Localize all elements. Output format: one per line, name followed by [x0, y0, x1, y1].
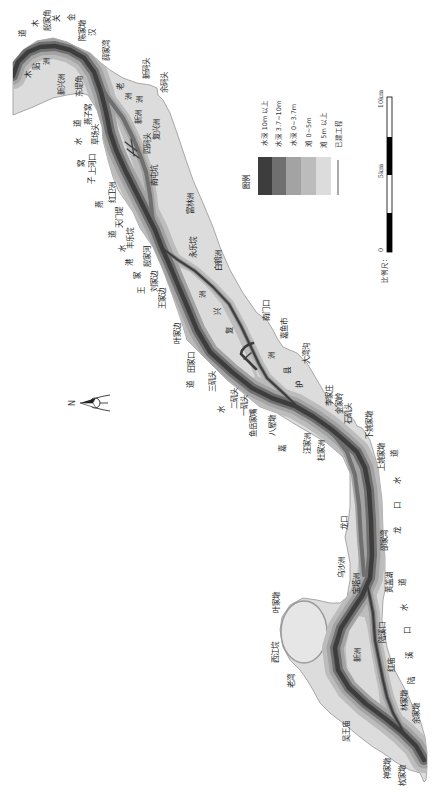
legend-label-deep: 水深 10m 以上: [262, 100, 269, 147]
scale-tick-10km: 10km: [378, 90, 385, 108]
scale-tick-5km: 5km: [378, 164, 385, 178]
legend-label-works: 已建工程: [336, 120, 343, 148]
legend-label-shoal-high: 滩 5m 以上: [321, 112, 328, 148]
scale-tick-0: 0: [378, 248, 385, 252]
legend-title: 图例: [243, 175, 251, 189]
north-label: N: [69, 400, 77, 406]
map-annotations: N 图例 水深 10m 以上 水深 3.7~10m 水深 0~3.7m 滩 0~…: [0, 0, 437, 793]
legend-label-mid: 水深 3.7~10m: [276, 101, 283, 147]
legend-label-shallow: 水深 0~3.7m: [291, 104, 298, 146]
scale-title: 比例尺：: [382, 255, 389, 283]
legend-label-shoal-low: 滩 0~5m: [306, 117, 313, 146]
river-map: 道木殷家角关金陈家墩汉薛家湾新码头余码头木贴洲新兴洲东堤角老洲洲新洲燕子窝道水草…: [0, 0, 437, 793]
